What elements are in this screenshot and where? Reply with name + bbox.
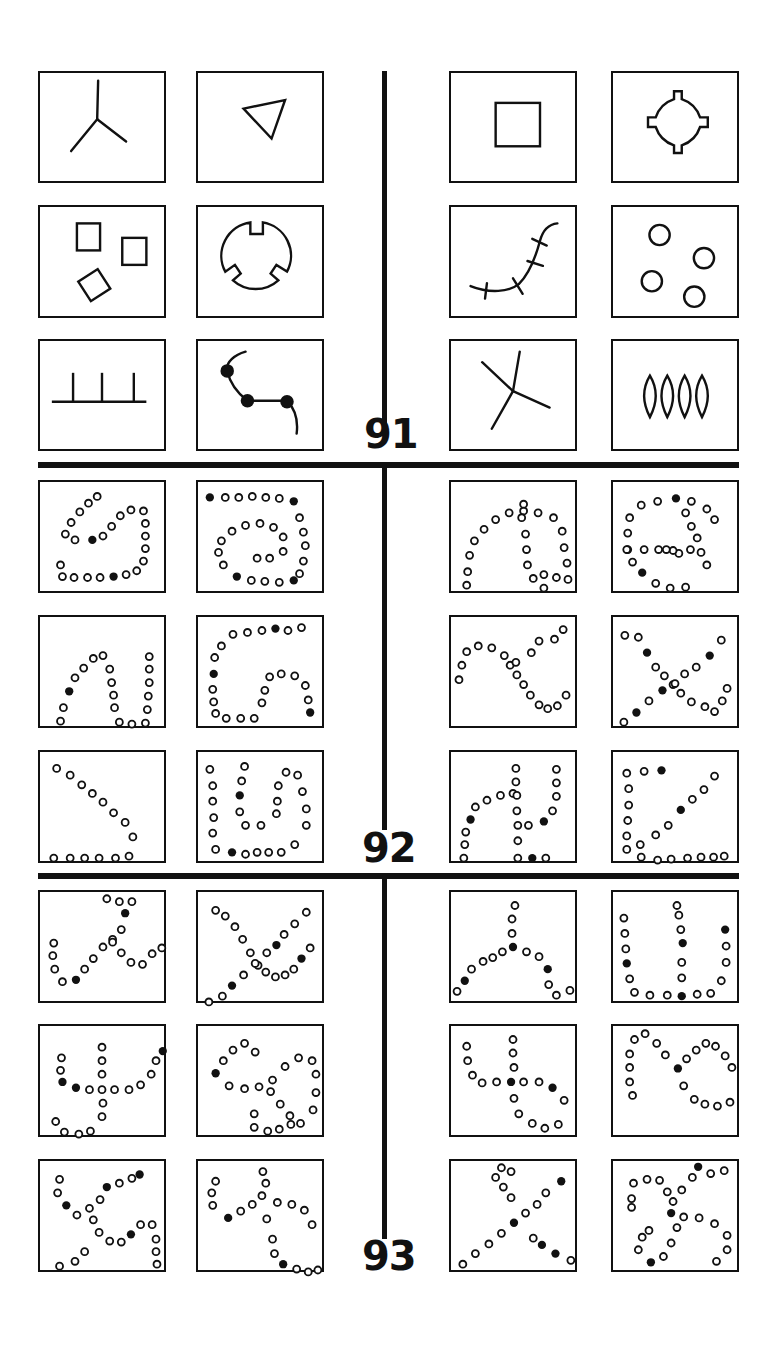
dot-pattern-icon bbox=[198, 752, 322, 861]
panel-93-R6 bbox=[611, 1159, 739, 1272]
dot-pattern-icon bbox=[198, 1026, 322, 1135]
panel-91-R1 bbox=[449, 71, 577, 183]
dot-pattern-icon bbox=[40, 892, 164, 1001]
beaded-curve-icon bbox=[198, 341, 322, 449]
panel-91-L4 bbox=[196, 205, 324, 318]
dot-pattern-icon bbox=[40, 1161, 164, 1270]
panel-91-R5 bbox=[449, 339, 577, 451]
dot-pattern-icon bbox=[451, 1026, 575, 1135]
divider-93 bbox=[382, 879, 387, 1239]
dot-pattern-icon bbox=[198, 482, 322, 591]
problem-number-92: 92 bbox=[362, 828, 416, 868]
panel-92-L2 bbox=[196, 480, 324, 593]
panel-92-R4 bbox=[611, 615, 739, 728]
dot-pattern-icon bbox=[40, 617, 164, 726]
square-icon bbox=[451, 73, 575, 181]
panel-91-R6 bbox=[611, 339, 739, 451]
panel-93-R5 bbox=[449, 1159, 577, 1272]
panel-92-L5 bbox=[38, 750, 166, 863]
comb-icon bbox=[40, 341, 164, 449]
separator-91-92 bbox=[38, 462, 739, 468]
notched-circle-icon bbox=[198, 207, 322, 316]
ticked-curve-icon bbox=[451, 207, 575, 316]
panel-92-R2 bbox=[611, 480, 739, 593]
dot-pattern-icon bbox=[198, 1161, 322, 1270]
panel-93-L2 bbox=[196, 890, 324, 1003]
dot-pattern-icon bbox=[198, 617, 322, 726]
panel-92-R1 bbox=[449, 480, 577, 593]
dot-pattern-icon bbox=[613, 892, 737, 1001]
divider-91 bbox=[382, 71, 387, 423]
tabbed-circle-icon bbox=[613, 73, 737, 181]
panel-91-L2 bbox=[196, 71, 324, 183]
dot-pattern-icon bbox=[40, 752, 164, 861]
triangle-icon bbox=[198, 73, 322, 181]
dot-pattern-icon bbox=[613, 1026, 737, 1135]
panel-92-L4 bbox=[196, 615, 324, 728]
four-circles-icon bbox=[613, 207, 737, 316]
three-squares-icon bbox=[40, 207, 164, 316]
panel-91-L5 bbox=[38, 339, 166, 451]
panel-92-R5 bbox=[449, 750, 577, 863]
panel-91-L3 bbox=[38, 205, 166, 318]
panel-92-L3 bbox=[38, 615, 166, 728]
panel-93-R2 bbox=[611, 890, 739, 1003]
panel-92-L6 bbox=[196, 750, 324, 863]
dot-pattern-icon bbox=[198, 892, 322, 1001]
panel-93-L3 bbox=[38, 1024, 166, 1137]
divider-92 bbox=[382, 468, 387, 830]
panel-92-R6 bbox=[611, 750, 739, 863]
dot-pattern-icon bbox=[613, 752, 737, 861]
dot-pattern-icon bbox=[613, 482, 737, 591]
panel-93-L6 bbox=[196, 1159, 324, 1272]
panel-93-R1 bbox=[449, 890, 577, 1003]
panel-92-L1 bbox=[38, 480, 166, 593]
dot-pattern-icon bbox=[451, 617, 575, 726]
dot-pattern-icon bbox=[40, 1026, 164, 1135]
dot-pattern-icon bbox=[451, 1161, 575, 1270]
four-lenses-icon bbox=[613, 341, 737, 449]
panel-92-R3 bbox=[449, 615, 577, 728]
panel-93-L5 bbox=[38, 1159, 166, 1272]
problem-number-93: 93 bbox=[362, 1236, 416, 1276]
problem-number-91: 91 bbox=[364, 414, 418, 454]
panel-91-R2 bbox=[611, 71, 739, 183]
dot-pattern-icon bbox=[613, 617, 737, 726]
dot-pattern-icon bbox=[40, 482, 164, 591]
panel-93-L1 bbox=[38, 890, 166, 1003]
four-ray-junction-icon bbox=[451, 341, 575, 449]
panel-91-R4 bbox=[611, 205, 739, 318]
panel-91-R3 bbox=[449, 205, 577, 318]
separator-92-93 bbox=[38, 873, 739, 879]
dot-pattern-icon bbox=[451, 482, 575, 591]
panel-93-R3 bbox=[449, 1024, 577, 1137]
tripod-icon bbox=[40, 73, 164, 181]
panel-93-R4 bbox=[611, 1024, 739, 1137]
dot-pattern-icon bbox=[451, 752, 575, 861]
dot-pattern-icon bbox=[451, 892, 575, 1001]
panel-91-L6 bbox=[196, 339, 324, 451]
panel-91-L1 bbox=[38, 71, 166, 183]
dot-pattern-icon bbox=[613, 1161, 737, 1270]
panel-93-L4 bbox=[196, 1024, 324, 1137]
